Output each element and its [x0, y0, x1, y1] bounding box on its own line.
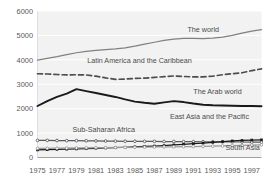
data-point-marker: [241, 139, 244, 142]
x-tick-label: 1991: [185, 166, 201, 175]
x-tick-label: 1983: [107, 166, 123, 175]
series-label-sub-saharan-africa: Sub-Saharan Africa: [73, 125, 135, 134]
data-point-marker: [75, 139, 78, 142]
chart-container: 0100020003000400050006000 19751977197919…: [0, 0, 263, 180]
data-point-marker: [46, 147, 49, 150]
y-axis-ticks: 0100020003000400050006000: [17, 7, 33, 163]
y-tick-label: 6000: [17, 7, 33, 16]
data-point-marker: [104, 140, 107, 143]
data-point-marker: [95, 146, 98, 149]
data-point-marker: [36, 139, 39, 142]
data-point-marker: [143, 146, 146, 149]
y-tick-label: 3000: [17, 80, 33, 89]
data-point-marker: [85, 139, 88, 142]
data-point-marker: [65, 147, 68, 150]
line-chart: 0100020003000400050006000 19751977197919…: [0, 0, 263, 180]
data-point-marker: [260, 143, 263, 146]
data-point-marker: [202, 145, 205, 148]
data-point-marker: [104, 146, 107, 149]
data-point-marker: [124, 140, 127, 143]
x-tick-label: 1989: [166, 166, 182, 175]
series-label-latin-america-and-the-caribbean: Latin America and the Caribbean: [87, 56, 192, 65]
data-point-marker: [163, 146, 166, 149]
data-point-marker: [182, 145, 185, 148]
x-tick-label: 1975: [29, 166, 45, 175]
x-tick-label: 1979: [68, 166, 84, 175]
x-tick-label: 1995: [224, 166, 240, 175]
y-tick-label: 4000: [17, 56, 33, 65]
y-tick-label: 0: [29, 153, 33, 162]
data-point-marker: [85, 147, 88, 150]
data-point-marker: [143, 140, 146, 143]
data-point-marker: [65, 139, 68, 142]
data-point-marker: [231, 140, 234, 143]
data-point-marker: [75, 147, 78, 150]
x-tick-label: 1981: [88, 166, 104, 175]
data-point-marker: [153, 140, 156, 143]
data-point-marker: [260, 139, 263, 142]
data-point-marker: [182, 140, 185, 143]
series-label-the-world: The world: [187, 25, 219, 34]
data-point-marker: [153, 146, 156, 149]
data-point-marker: [56, 147, 59, 150]
series-label-east-asia-and-the-pacific: East Asia and the Pacific: [170, 112, 250, 121]
data-point-marker: [36, 147, 39, 150]
x-tick-label: 1993: [205, 166, 221, 175]
data-point-marker: [56, 139, 59, 142]
y-tick-label: 1000: [17, 129, 33, 138]
data-point-marker: [163, 140, 166, 143]
data-point-marker: [212, 141, 215, 144]
data-point-marker: [134, 146, 137, 149]
data-point-marker: [134, 140, 137, 143]
x-axis-ticks: 1975197719791981198319851987198919911993…: [29, 166, 260, 175]
series-label-the-arab-world: The Arab world: [193, 87, 241, 96]
data-point-marker: [221, 145, 224, 148]
x-tick-label: 1985: [127, 166, 143, 175]
y-tick-label: 5000: [17, 31, 33, 40]
data-point-marker: [46, 139, 49, 142]
x-tick-label: 1987: [146, 166, 162, 175]
x-tick-label: 1977: [49, 166, 65, 175]
y-tick-label: 2000: [17, 104, 33, 113]
data-point-marker: [114, 140, 117, 143]
data-point-marker: [173, 140, 176, 143]
data-point-marker: [221, 140, 224, 143]
data-point-marker: [114, 146, 117, 149]
series-label-south-asia: South Asia: [225, 143, 259, 152]
data-point-marker: [95, 140, 98, 143]
data-point-marker: [192, 142, 195, 145]
data-point-marker: [202, 142, 205, 145]
data-point-marker: [173, 145, 176, 148]
data-point-marker: [124, 146, 127, 149]
data-point-marker: [192, 145, 195, 148]
data-point-marker: [211, 145, 214, 148]
x-tick-label: 1997: [244, 166, 260, 175]
data-point-marker: [250, 139, 253, 142]
